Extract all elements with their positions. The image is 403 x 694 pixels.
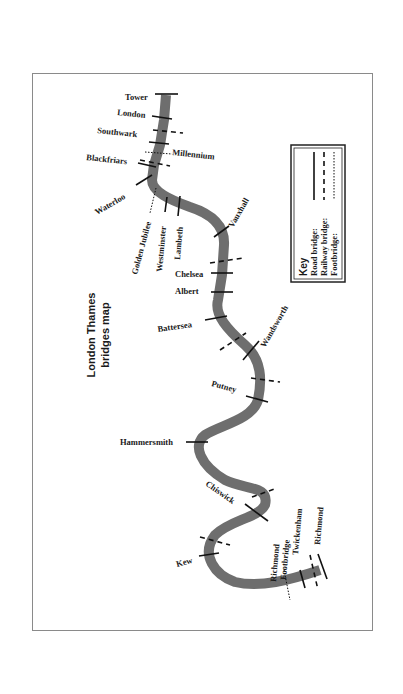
label-chelsea: Chelsea [175, 269, 204, 279]
key-title: Key [298, 257, 309, 276]
label-twickenham: Twickenham [290, 508, 304, 555]
thames-bridges-map: Tower London Southwark Millennium Blackf… [0, 0, 403, 694]
key-road-label: Road bridge: [309, 228, 319, 276]
label-putney: Putney [210, 378, 238, 394]
key-footbridge-label: Footbridge: [329, 233, 339, 276]
label-southwark: Southwark [97, 125, 138, 139]
title-line-2: bridges map [99, 302, 111, 368]
label-millennium: Millennium [172, 147, 215, 161]
map-key: Key Road bridge: Railway bridge: Footbri… [291, 145, 345, 282]
label-westminster: Westminster [154, 225, 168, 272]
label-golden-jubilee: Golden Jubilee [129, 220, 153, 275]
label-tower: Tower [125, 92, 148, 102]
label-wandsworth: Wandsworth [258, 303, 290, 349]
label-lambeth: Lambeth [172, 226, 185, 260]
label-battersea: Battersea [157, 319, 193, 334]
key-railway-label: Railway bridge: [319, 218, 329, 276]
map-title: London Thames bridges map [85, 293, 111, 378]
label-waterloo: Waterloo [93, 191, 127, 216]
label-albert: Albert [175, 286, 199, 296]
title-line-1: London Thames [85, 293, 97, 378]
label-kew: Kew [175, 555, 194, 569]
label-london: London [117, 107, 147, 120]
label-richmond: Richmond [312, 506, 325, 545]
label-vauxhall: Vauxhall [226, 195, 251, 229]
label-blackfriars: Blackfriars [86, 152, 129, 166]
label-hammersmith: Hammersmith [120, 437, 173, 447]
